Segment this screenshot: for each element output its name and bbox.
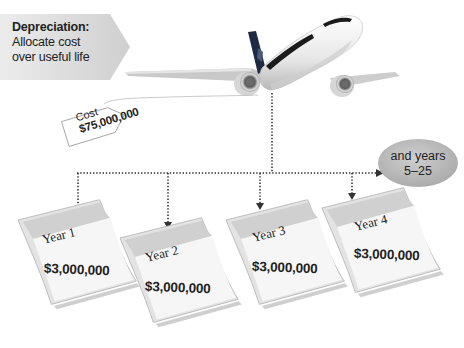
calendar-4-graphic	[322, 183, 444, 301]
remaining-years-line2: 5–25	[376, 164, 460, 179]
calendar-2-graphic	[120, 213, 242, 331]
remaining-years-text: and years 5–25	[376, 149, 460, 179]
calendar-1-graphic	[18, 195, 140, 313]
calendar-3-amount: $3,000,000	[252, 259, 318, 276]
depreciation-line1: Allocate cost	[12, 35, 80, 49]
calendar-4-amount: $3,000,000	[354, 246, 420, 263]
remaining-years-line1: and years	[376, 149, 460, 164]
depreciation-line2: over useful life	[12, 50, 89, 64]
calendar-1-amount: $3,000,000	[44, 261, 110, 278]
calendar-2-amount: $3,000,000	[145, 279, 211, 296]
airplane-icon	[125, 16, 400, 97]
depreciation-label: Depreciation: Allocate cost over useful …	[12, 20, 89, 65]
depreciation-title: Depreciation:	[12, 20, 89, 35]
